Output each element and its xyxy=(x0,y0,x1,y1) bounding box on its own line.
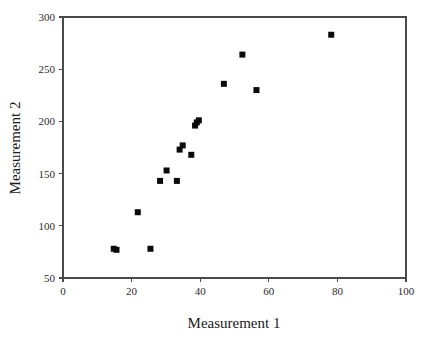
y-tick-label: 50 xyxy=(44,272,56,284)
y-axis-title: Measurement 2 xyxy=(7,102,23,195)
data-point-marker xyxy=(328,32,334,38)
x-tick-label: 100 xyxy=(398,285,415,297)
x-axis-ticks: 020406080100 xyxy=(60,278,415,297)
data-point-marker xyxy=(174,178,180,184)
x-tick-label: 20 xyxy=(126,285,138,297)
data-point-marker xyxy=(188,152,194,158)
y-axis-ticks: 50100150200250300 xyxy=(39,11,64,284)
data-point-marker xyxy=(221,81,227,87)
scatter-chart: 50100150200250300 020406080100 Measureme… xyxy=(0,0,429,341)
x-tick-label: 80 xyxy=(332,285,344,297)
data-points xyxy=(111,32,334,253)
data-point-marker xyxy=(135,209,141,215)
x-tick-label: 60 xyxy=(263,285,275,297)
y-tick-label: 100 xyxy=(39,220,56,232)
chart-canvas: 50100150200250300 020406080100 Measureme… xyxy=(0,0,429,341)
y-tick-label: 300 xyxy=(39,11,56,23)
data-point-marker xyxy=(253,87,259,93)
data-point-marker xyxy=(157,178,163,184)
data-point-marker xyxy=(196,117,202,123)
data-point-marker xyxy=(114,247,120,253)
y-tick-label: 150 xyxy=(39,168,56,180)
data-point-marker xyxy=(164,167,170,173)
x-axis-title: Measurement 1 xyxy=(188,315,281,331)
y-tick-label: 250 xyxy=(39,63,56,75)
plot-frame xyxy=(63,17,406,278)
x-tick-label: 0 xyxy=(60,285,66,297)
data-point-marker xyxy=(239,52,245,58)
data-point-marker xyxy=(147,246,153,252)
data-point-marker xyxy=(180,142,186,148)
y-tick-label: 200 xyxy=(39,115,56,127)
x-tick-label: 40 xyxy=(195,285,207,297)
